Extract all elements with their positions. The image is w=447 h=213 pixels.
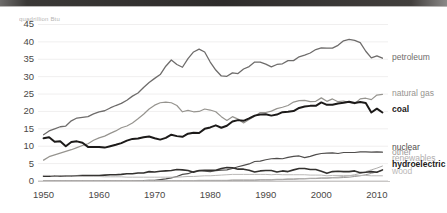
y-axis-tick-label: 35 xyxy=(12,54,34,63)
series-lines xyxy=(44,39,383,181)
series-line-coal xyxy=(44,102,383,148)
gridlines xyxy=(38,24,388,181)
x-axis-tick-label: 1950 xyxy=(24,189,64,200)
y-axis-tick-label: 30 xyxy=(12,72,34,81)
y-axis-tick-label: 45 xyxy=(12,19,34,28)
y-axis-tick-label: 15 xyxy=(12,124,34,133)
series-label-petroleum: petroleum xyxy=(392,53,430,62)
x-axis-tick-label: 1970 xyxy=(135,189,175,200)
x-axis-tick-label: 1990 xyxy=(246,189,286,200)
x-axis-tick-label: 1980 xyxy=(190,189,230,200)
series-line-petroleum xyxy=(44,39,383,134)
series-line-renewables xyxy=(44,166,383,181)
series-label-wood: wood xyxy=(392,167,412,176)
y-axis-tick-label: 10 xyxy=(12,141,34,150)
x-axis-tick-label: 2000 xyxy=(301,189,341,200)
series-label-natural-gas: natural gas xyxy=(392,89,434,98)
x-axis-tick-label: 1960 xyxy=(79,189,119,200)
series-label-coal: coal xyxy=(392,105,409,114)
x-axis-line xyxy=(38,181,390,182)
y-axis-tick-label: 20 xyxy=(12,106,34,115)
y-axis-tick-label: 5 xyxy=(12,159,34,168)
y-axis-tick-label: 0 xyxy=(12,176,34,185)
y-axis-tick-label: 25 xyxy=(12,89,34,98)
energy-consumption-line-chart: quadrillion Btu 051015202530354045 19501… xyxy=(0,7,447,213)
plot-area xyxy=(0,7,447,213)
x-axis-tick-label: 2010 xyxy=(357,189,397,200)
series-line-hydroelectric xyxy=(44,167,383,176)
y-axis-tick-label: 40 xyxy=(12,37,34,46)
y-axis-labels: 051015202530354045 xyxy=(8,7,34,213)
